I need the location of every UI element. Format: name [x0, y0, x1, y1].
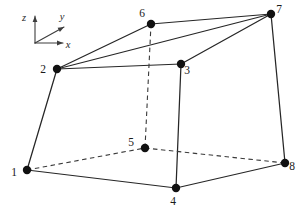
edge-5-6	[145, 24, 151, 148]
node-4-dot	[172, 184, 180, 192]
nodes-layer	[23, 10, 289, 192]
axis-y-label: y	[59, 11, 65, 22]
node-2-dot	[53, 65, 61, 73]
edge-4-1	[27, 170, 176, 188]
node-2-label: 2	[40, 63, 46, 75]
hexahedron-figure: zyx 12345678	[0, 0, 305, 211]
axis-z-arrowhead-icon	[33, 16, 38, 22]
edge-1-5	[27, 148, 145, 170]
node-8-dot	[281, 159, 289, 167]
axis-x-arrowhead-icon	[57, 41, 63, 46]
hexahedron-diagram-canvas: zyx 12345678	[0, 0, 305, 211]
node-3-label: 3	[184, 64, 190, 76]
edge-2-7	[57, 14, 271, 69]
node-1-label: 1	[11, 166, 17, 178]
node-4-label: 4	[170, 195, 176, 207]
edge-4-8	[176, 163, 285, 188]
edge-1-2	[27, 69, 57, 170]
node-5-label: 5	[128, 136, 134, 148]
edge-7-8	[271, 14, 285, 163]
axis-triad: zyx	[21, 11, 71, 50]
node-labels-layer: 12345678	[11, 3, 295, 207]
node-6-dot	[147, 20, 155, 28]
node-5-dot	[141, 144, 149, 152]
node-8-label: 8	[289, 160, 295, 172]
edge-3-7	[181, 14, 271, 64]
node-1-dot	[23, 166, 31, 174]
edge-3-4	[176, 64, 181, 188]
node-7-dot	[267, 10, 275, 18]
edge-5-8	[145, 148, 285, 163]
axis-z-label: z	[21, 12, 26, 23]
edge-2-6	[57, 24, 151, 69]
axis-x-label: x	[65, 39, 71, 50]
node-7-label: 7	[276, 3, 282, 15]
axis-y-arrowhead-icon	[58, 27, 64, 32]
node-6-label: 6	[139, 7, 145, 19]
